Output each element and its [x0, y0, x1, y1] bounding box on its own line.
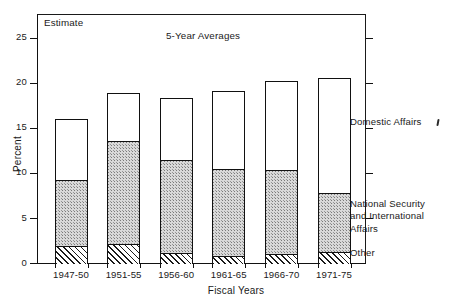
y-axis-line	[37, 14, 38, 264]
segment-other-1956-60	[161, 253, 192, 264]
x-tick-1951-55-right	[140, 263, 141, 268]
x-tick-1961-65-right	[245, 263, 246, 268]
segment-other-1971-75	[319, 252, 350, 264]
x-axis-label-1951-55: 1951-55	[94, 269, 154, 280]
segment-national-security-1947-50	[56, 180, 87, 246]
segment-national-security-1951-55	[108, 141, 139, 244]
y-tick-10	[30, 173, 37, 174]
segment-national-security-1956-60	[161, 160, 192, 253]
x-tick-1956-60-left	[160, 263, 161, 268]
y-tick-label-0: 0	[0, 257, 27, 268]
legend-label-national-security: National Security and International Affa…	[350, 198, 425, 235]
y-tick-label-20: 20	[0, 76, 27, 87]
x-tick-1971-75-right	[351, 263, 352, 268]
bar-1956-60	[160, 98, 193, 263]
bar-1971-75	[318, 78, 351, 263]
x-axis-label-1966-70: 1966-70	[251, 269, 311, 280]
x-tick-1966-70-right	[298, 263, 299, 268]
stacked-bar-chart: Percent 0510152025 1947-501951-551956-60…	[0, 0, 472, 307]
segment-other-1947-50	[56, 246, 87, 264]
estimate-tick-mark	[436, 119, 439, 126]
y-tick-right-10	[366, 173, 373, 174]
chart-subtitle: 5-Year Averages	[166, 30, 240, 41]
x-tick-1966-70-left	[265, 263, 266, 268]
y-tick-0	[30, 263, 37, 264]
x-axis-label-1956-60: 1956-60	[146, 269, 206, 280]
segment-other-1961-65	[213, 256, 244, 264]
y-tick-20	[30, 83, 37, 84]
bar-1966-70	[265, 81, 298, 263]
segment-national-security-1961-65	[213, 169, 244, 256]
y-tick-25	[30, 38, 37, 39]
bar-1951-55	[107, 93, 140, 264]
x-axis-title: Fiscal Years	[0, 285, 472, 296]
segment-other-1966-70	[266, 254, 297, 264]
segment-other-1951-55	[108, 244, 139, 264]
legend-label-domestic-affairs: Domestic Affairs	[350, 116, 422, 128]
y-tick-label-25: 25	[0, 31, 27, 42]
y-tick-right-20	[366, 83, 373, 84]
segment-national-security-1966-70	[266, 170, 297, 254]
x-tick-1956-60-right	[193, 263, 194, 268]
x-axis-label-1947-50: 1947-50	[41, 269, 101, 280]
x-tick-1951-55-left	[107, 263, 108, 268]
x-tick-1947-50-left	[55, 263, 56, 268]
y-tick-right-25	[366, 38, 373, 39]
legend-label-other: Other	[350, 247, 375, 259]
x-tick-1947-50-right	[88, 263, 89, 268]
segment-national-security-1971-75	[319, 193, 350, 253]
y-tick-5	[30, 218, 37, 219]
x-tick-1971-75-left	[318, 263, 319, 268]
x-tick-1961-65-left	[212, 263, 213, 268]
y-tick-label-15: 15	[0, 121, 27, 132]
y-tick-label-10: 10	[0, 166, 27, 177]
bar-1961-65	[212, 91, 245, 263]
y-tick-label-5: 5	[0, 212, 27, 223]
bar-1947-50	[55, 119, 88, 263]
y-tick-15	[30, 128, 37, 129]
x-axis-label-1961-65: 1961-65	[199, 269, 259, 280]
x-axis-label-1971-75: 1971-75	[304, 269, 364, 280]
estimate-annotation: Estimate	[44, 17, 83, 28]
